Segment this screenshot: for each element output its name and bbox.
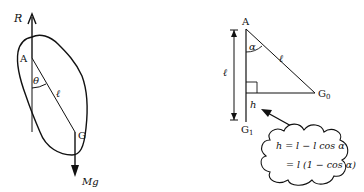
- pivot-a-label: A: [19, 53, 28, 64]
- callout-equation-line-1: h = l − l cos α: [276, 140, 345, 151]
- hypotenuse-length-label: ℓ: [279, 53, 283, 64]
- vertical-length-label: ℓ: [223, 67, 227, 78]
- center-of-mass-label: G: [78, 130, 86, 141]
- g0-label: G0: [318, 88, 330, 101]
- callout-pointer-arrowhead-icon: [261, 109, 272, 117]
- g1-label: G1: [241, 124, 253, 137]
- rigid-body-outline: [17, 35, 87, 155]
- callout-equation-line-2: = l (1 − cos α): [286, 159, 356, 170]
- alpha-label: α: [249, 41, 256, 52]
- callout-cloud: [261, 124, 348, 185]
- height-geometry-figure: A α ℓ ℓ G0 h G1 h = l − l cos α = l (1 −…: [223, 16, 356, 185]
- weight-label: Mg: [81, 176, 99, 187]
- weight-arrowhead-icon: [71, 165, 79, 177]
- pivot-a-label-right: A: [241, 16, 250, 27]
- length-label: ℓ: [56, 88, 60, 99]
- reaction-label: R: [13, 12, 22, 25]
- line-a-to-g: [32, 58, 75, 132]
- right-angle-marker: [246, 82, 257, 93]
- pendulum-body-figure: R A θ ℓ G Mg: [13, 12, 99, 187]
- height-label: h: [250, 99, 256, 110]
- dimension-down-arrowhead-icon: [231, 113, 237, 120]
- theta-label: θ: [33, 75, 39, 86]
- dimension-up-arrowhead-icon: [231, 30, 237, 37]
- diagram-canvas: R A θ ℓ G Mg A α ℓ ℓ G0 h G1: [0, 0, 364, 192]
